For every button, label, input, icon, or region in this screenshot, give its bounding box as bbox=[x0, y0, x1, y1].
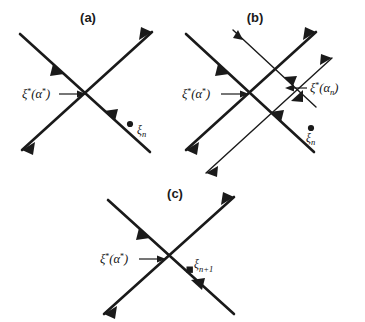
panel-a-title: (a) bbox=[80, 10, 96, 25]
paren-close: ) bbox=[333, 81, 338, 95]
paren-close: ) bbox=[123, 252, 128, 266]
panel-c-next-iterate-point bbox=[187, 267, 193, 273]
panel-b-fixed-point-label: ξ*(α*) bbox=[182, 87, 210, 101]
paren-close: ) bbox=[45, 87, 50, 101]
n-sub: n bbox=[142, 129, 146, 139]
panel-b-iterate-point bbox=[308, 125, 314, 131]
paren-close: ) bbox=[205, 87, 210, 101]
figure-background bbox=[0, 0, 365, 322]
n-sub: n bbox=[311, 137, 315, 147]
panel-a-iterate-point bbox=[127, 121, 133, 127]
panel-b-title: (b) bbox=[247, 10, 264, 25]
panel-a-fixed-point-label: ξ*(α*) bbox=[22, 87, 50, 101]
panel-c-title: (c) bbox=[167, 186, 183, 201]
panel-b-approx-fixed-point-label: ξ*(αn) bbox=[310, 81, 339, 97]
figure-canvas: (a) ξ*(α*) ξn bbox=[0, 0, 365, 322]
n-plus-1-sub: n+1 bbox=[199, 264, 213, 274]
panel-c-fixed-point-label: ξ*(α*) bbox=[100, 252, 128, 266]
